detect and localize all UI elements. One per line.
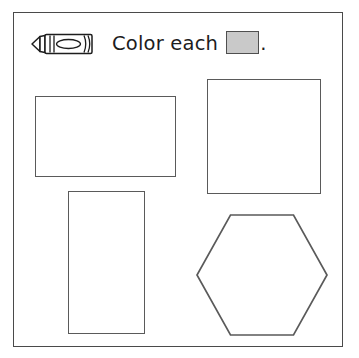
instruction-label: Color each. [112,31,267,57]
crayon-icon [30,31,100,57]
instruction-text: Color each [112,32,218,55]
color-sample-swatch [226,31,259,54]
shape-wide-rectangle[interactable] [35,96,176,177]
shape-square[interactable] [207,79,321,194]
worksheet-frame: Color each. [13,12,343,347]
hexagon-outline-icon [195,213,329,337]
instruction-row: Color each. [30,27,267,61]
shape-tall-rectangle[interactable] [68,191,145,334]
worksheet-page: Color each. [0,0,359,358]
instruction-period: . [260,32,266,55]
shape-hexagon[interactable] [195,213,329,337]
